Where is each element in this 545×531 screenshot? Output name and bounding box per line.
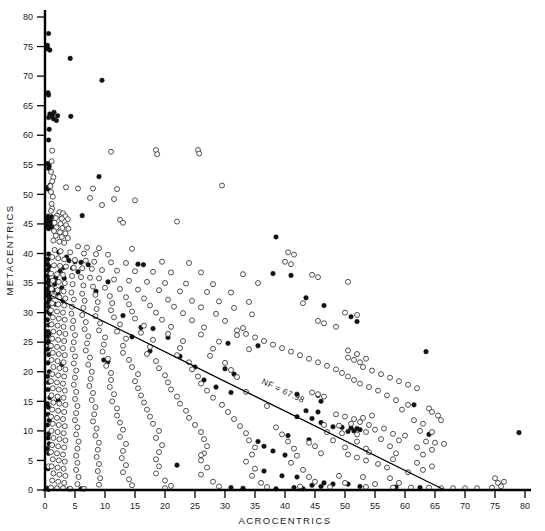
data-point-open: [103, 285, 108, 290]
data-point-filled: [141, 262, 146, 267]
data-point-open: [89, 369, 94, 374]
data-point-open: [205, 465, 210, 470]
data-point-open: [286, 250, 291, 255]
data-point-open: [97, 440, 102, 445]
data-point-open: [151, 337, 156, 342]
data-point-open: [223, 318, 228, 323]
data-point-open: [358, 420, 363, 425]
data-point-open: [56, 279, 61, 284]
data-point-open: [310, 272, 315, 277]
data-point-open: [274, 425, 279, 430]
data-point-open: [148, 414, 153, 419]
data-point-open: [57, 330, 62, 335]
data-point-open: [154, 457, 159, 462]
data-point-open: [48, 184, 53, 189]
data-point-open: [49, 159, 54, 164]
data-point-open: [97, 246, 102, 251]
data-point-open: [88, 195, 93, 200]
data-point-open: [56, 387, 61, 392]
data-point-open: [56, 458, 61, 463]
data-point-open: [154, 471, 159, 476]
data-point-open: [109, 308, 114, 313]
data-point-open: [74, 411, 79, 416]
data-point-open: [358, 360, 363, 365]
data-point-open: [313, 444, 318, 449]
data-point-open: [58, 249, 63, 254]
data-point-open: [370, 368, 375, 373]
data-point-open: [61, 395, 66, 400]
data-point-open: [57, 239, 62, 244]
data-point-open: [415, 445, 420, 450]
data-point-open: [235, 328, 240, 333]
data-point-open: [196, 374, 201, 379]
data-point-open: [142, 296, 147, 301]
data-point-open: [121, 220, 126, 225]
data-point-open: [69, 290, 74, 295]
data-point-open: [59, 216, 64, 221]
data-points-layer: [45, 31, 521, 491]
data-point-filled: [316, 410, 321, 415]
scatter-plot-figure: NF = 67.98 05101520253035404550556065707…: [0, 0, 545, 531]
data-point-open: [226, 409, 231, 414]
data-point-open: [71, 361, 76, 366]
data-point-open: [62, 459, 67, 464]
data-point-filled: [121, 313, 126, 318]
data-point-open: [139, 393, 144, 398]
data-point-open: [181, 339, 186, 344]
data-point-open: [163, 281, 168, 286]
data-point-open: [160, 259, 165, 264]
y-tick-label: 15: [23, 397, 33, 407]
data-point-open: [197, 151, 202, 156]
data-point-open: [71, 297, 76, 302]
data-point-open: [94, 426, 99, 431]
data-point-open: [430, 464, 435, 469]
data-point-filled: [223, 366, 228, 371]
data-point-open: [310, 390, 315, 395]
data-point-open: [238, 424, 243, 429]
data-point-open: [56, 337, 61, 342]
data-point-open: [148, 303, 153, 308]
data-point-open: [109, 149, 114, 154]
data-point-open: [367, 422, 372, 427]
data-point-open: [247, 438, 252, 443]
data-point-open: [49, 464, 54, 469]
y-tick-label: 5: [28, 456, 33, 466]
data-point-open: [61, 324, 66, 329]
data-point-open: [343, 310, 348, 315]
data-point-open: [49, 190, 54, 195]
data-point-open: [73, 418, 78, 423]
data-point-open: [199, 430, 204, 435]
data-point-open: [166, 297, 171, 302]
data-point-open: [73, 333, 78, 338]
data-point-open: [157, 366, 162, 371]
data-point-open: [244, 431, 249, 436]
data-point-open: [169, 324, 174, 329]
data-point-open: [63, 367, 68, 372]
data-point-open: [256, 281, 261, 286]
data-point-filled: [106, 280, 111, 285]
y-tick-label: 20: [23, 367, 33, 377]
data-point-open: [58, 230, 63, 235]
data-point-open: [70, 282, 75, 287]
data-point-open: [259, 480, 264, 485]
data-point-open: [49, 308, 54, 313]
data-point-open: [109, 370, 114, 375]
data-point-open: [50, 443, 55, 448]
data-point-open: [334, 367, 339, 372]
data-point-filled: [256, 343, 261, 348]
data-point-open: [106, 252, 111, 257]
data-point-open: [56, 479, 61, 484]
data-point-open: [247, 299, 252, 304]
data-point-open: [373, 427, 378, 432]
data-point-open: [50, 194, 55, 199]
data-point-filled: [310, 416, 315, 421]
data-point-open: [62, 303, 67, 308]
data-point-open: [199, 332, 204, 337]
data-point-open: [373, 482, 378, 487]
data-point-open: [328, 485, 333, 490]
data-point-open: [130, 246, 135, 251]
data-point-open: [217, 299, 222, 304]
data-point-open: [376, 388, 381, 393]
data-point-open: [388, 444, 393, 449]
data-point-filled: [262, 444, 267, 449]
